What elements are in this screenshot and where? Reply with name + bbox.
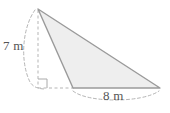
triangle-diagram-svg — [0, 0, 170, 113]
right-angle-marker-icon — [38, 79, 47, 88]
base-dimension-label: 8 m — [103, 88, 124, 104]
height-measure-arc — [24, 10, 46, 89]
triangle-shape — [38, 9, 160, 88]
height-dimension-label: 7 m — [3, 38, 24, 54]
geometry-figure: 7 m 8 m — [0, 0, 170, 113]
